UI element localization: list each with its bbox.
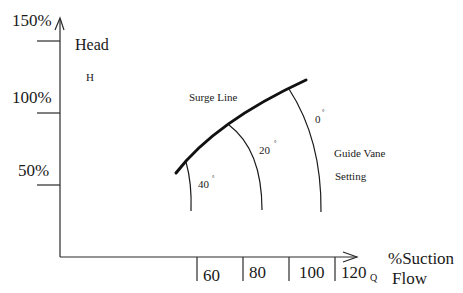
x-tick-label-60: 60 <box>203 266 220 285</box>
y-tick-label-50: 50% <box>18 161 49 180</box>
x-axis-title-line1: %Suction <box>388 249 455 268</box>
guide-vane-setting-line1: Guide Vane <box>334 147 386 159</box>
y-axis-title: Head <box>75 36 109 53</box>
guide-vane-label-0: 0 <box>315 113 321 125</box>
degree-mark-0: ° <box>322 109 325 115</box>
y-axis-symbol: H <box>86 71 94 83</box>
x-axis-symbol: Q <box>370 272 378 283</box>
guide-vane-setting-line2: Setting <box>335 170 367 182</box>
guide-vane-label-20: 20 <box>259 144 271 156</box>
guide-vane-label-40: 40 <box>198 178 210 190</box>
compressor-map-diagram: 150% 100% 50% Head H 60 80 100 120 Q %Su… <box>0 0 463 293</box>
surge-line-label: Surge Line <box>189 91 237 103</box>
degree-mark-20: ° <box>274 140 277 146</box>
guide-vane-curve-40 <box>186 162 191 211</box>
x-axis-title-line2: Flow <box>392 269 428 288</box>
degree-mark-40: ° <box>212 175 215 181</box>
guide-vane-curve-0 <box>289 89 321 212</box>
x-tick-label-120: 120 <box>341 263 367 282</box>
guide-vane-curve-20 <box>229 125 262 210</box>
x-tick-label-80: 80 <box>249 263 266 282</box>
y-tick-label-100: 100% <box>12 88 52 107</box>
x-tick-label-100: 100 <box>299 263 325 282</box>
y-tick-label-150: 150% <box>12 11 52 30</box>
